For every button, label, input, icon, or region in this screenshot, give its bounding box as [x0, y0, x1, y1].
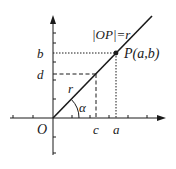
label-alpha: α [79, 101, 86, 114]
label-origin: O [37, 123, 47, 137]
label-length-op: |OP|=r [92, 28, 130, 41]
y-axis [50, 15, 56, 155]
label-b: b [37, 47, 44, 60]
x-axis [10, 115, 166, 121]
diagram-canvas: b d O c a P(a,b) |OP|=r r α [0, 0, 176, 169]
label-a: a [113, 123, 120, 136]
x-axis-arrow-icon [157, 115, 166, 121]
point-p-marker [114, 51, 119, 56]
label-d: d [37, 68, 44, 81]
angle-alpha-arc [72, 100, 80, 118]
coordinate-diagram [0, 0, 176, 169]
label-point-p: P(a,b) [124, 47, 159, 61]
y-axis-arrow-icon [50, 15, 56, 24]
label-r: r [68, 82, 73, 95]
label-c: c [93, 123, 99, 136]
